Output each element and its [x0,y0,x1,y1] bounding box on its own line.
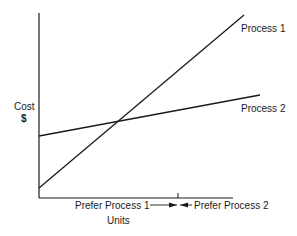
prefer-process-1-arrow [150,203,177,208]
process-2-label: Process 2 [241,103,285,114]
prefer-process-2-label: Prefer Process 2 [194,200,268,211]
process-1-label: Process 1 [241,23,285,34]
prefer-process-1-label: Prefer Process 1 [75,200,149,211]
x-axis-label-units: Units [107,215,130,226]
process-2-line [39,95,260,136]
y-axis-label-dollar: $ [21,113,27,124]
y-axis-label-cost: Cost [14,101,35,112]
prefer-process-2-arrow [180,203,192,208]
process-1-line [39,15,244,188]
